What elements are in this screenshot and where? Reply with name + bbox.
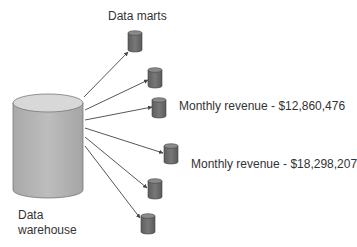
data-mart-1 bbox=[128, 31, 142, 52]
data-mart-4 bbox=[164, 144, 178, 164]
arrow-to-mart-2 bbox=[85, 80, 148, 110]
data-warehouse-cylinder bbox=[13, 94, 83, 198]
warehouse-label-line1: Data bbox=[18, 208, 43, 222]
warehouse-label-line2: warehouse bbox=[18, 223, 77, 237]
data-marts-label: Data marts bbox=[108, 9, 167, 23]
data-mart-2 bbox=[148, 68, 162, 88]
data-mart-5 bbox=[148, 179, 162, 199]
arrow-to-mart-3 bbox=[85, 107, 152, 120]
data-mart-6 bbox=[141, 214, 155, 234]
monthly-revenue-annotation-1: Monthly revenue - $12,860,476 bbox=[179, 99, 345, 113]
arrow-to-mart-1 bbox=[84, 52, 128, 97]
arrow-to-mart-6 bbox=[85, 146, 140, 218]
monthly-revenue-annotation-2: Monthly revenue - $18,298,207 bbox=[191, 157, 357, 171]
arrow-to-mart-4 bbox=[85, 128, 163, 153]
data-mart-3 bbox=[152, 98, 166, 118]
